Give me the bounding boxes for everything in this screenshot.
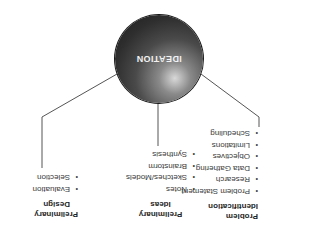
bullet-icon: • <box>250 174 258 186</box>
branch-heading: Preliminary Design <box>33 199 78 219</box>
list-item: •Notes <box>126 183 195 195</box>
ideation-hub: IDEATION <box>115 15 203 103</box>
hub-label: IDEATION <box>136 54 182 64</box>
bullet-icon: • <box>250 139 258 151</box>
bullet-icon: • <box>187 172 195 184</box>
connector-design <box>42 74 117 168</box>
branch-heading: Preliminary Ideas <box>126 199 195 219</box>
connector-problem <box>201 74 259 127</box>
bullet-icon: • <box>250 185 258 197</box>
list-item: •Brainstorm <box>126 160 195 172</box>
bullet-icon: • <box>187 149 195 161</box>
bullet-icon: • <box>187 160 195 172</box>
bullet-icon: • <box>250 151 258 163</box>
branch-preliminary-design: Preliminary Design •Evaluation •Selectio… <box>33 172 78 219</box>
list-item: •Scheduling <box>182 127 258 139</box>
bullet-icon: • <box>70 172 78 184</box>
list-item: •Evaluation <box>33 183 78 195</box>
branch-items: •Notes •Sketches/Models •Brainstorm •Syn… <box>126 149 195 195</box>
ideation-diagram: IDEATION Problem Identification •Problem… <box>0 0 318 237</box>
list-item: •Selection <box>33 172 78 184</box>
bullet-icon: • <box>187 183 195 195</box>
bullet-icon: • <box>70 183 78 195</box>
list-item: •Sketches/Models <box>126 172 195 184</box>
list-item: •Synthesis <box>126 149 195 161</box>
bullet-icon: • <box>250 127 258 139</box>
branch-preliminary-ideas: Preliminary Ideas •Notes •Sketches/Model… <box>126 149 195 219</box>
bullet-icon: • <box>250 162 258 174</box>
branch-items: •Evaluation •Selection <box>33 172 78 195</box>
